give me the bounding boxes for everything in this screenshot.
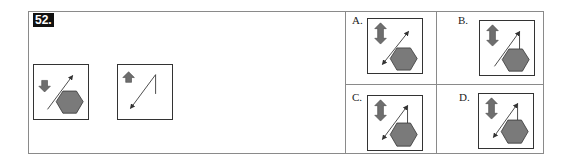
option-label-b[interactable]: B.: [458, 14, 468, 26]
option-d-figure[interactable]: [478, 93, 534, 149]
question-frame: [28, 11, 544, 154]
question-figure-2: [117, 64, 173, 120]
hexagon-icon: [501, 120, 528, 143]
option-label-a[interactable]: A.: [352, 14, 363, 26]
option-b-figure[interactable]: [479, 20, 535, 76]
figure-drawing: [118, 65, 172, 119]
divider-options-columns: [436, 11, 437, 154]
divider-options-rows: [345, 84, 544, 85]
figure-drawing: [368, 96, 422, 150]
figure-drawing: [479, 94, 533, 148]
up-arrow-icon: [123, 72, 135, 83]
question-number: 52.: [33, 13, 54, 27]
figure-drawing: [368, 19, 422, 73]
hexagon-icon: [390, 48, 417, 70]
up-down-arrow-icon: [375, 23, 387, 44]
figure-drawing: [480, 21, 534, 75]
down-arrow-icon: [39, 80, 51, 92]
divider-question-options: [345, 11, 346, 154]
hexagon-icon: [56, 91, 83, 113]
line-arrow-icon: [131, 75, 156, 109]
question-figure-1: [33, 64, 89, 120]
figure-drawing: [34, 65, 88, 119]
option-c-figure[interactable]: [367, 95, 423, 151]
hexagon-icon: [502, 49, 529, 71]
option-a-figure[interactable]: [367, 18, 423, 74]
up-down-arrow-icon: [487, 25, 499, 46]
up-down-arrow-icon: [375, 100, 387, 121]
option-label-d[interactable]: D.: [459, 91, 470, 103]
up-down-arrow-icon: [486, 98, 498, 119]
option-label-c[interactable]: C.: [352, 91, 362, 103]
hexagon-icon: [390, 123, 417, 146]
